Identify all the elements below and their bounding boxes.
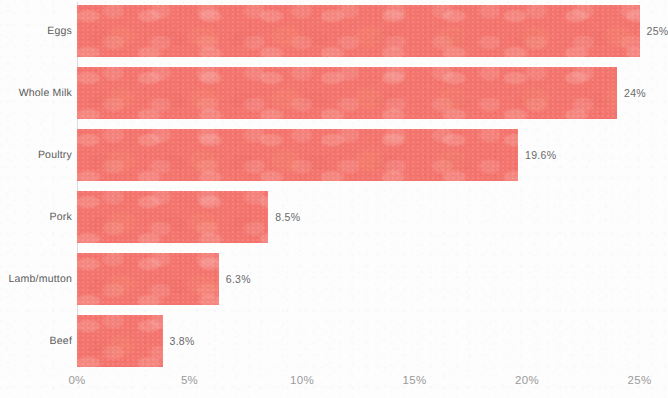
bar[interactable] bbox=[77, 253, 219, 305]
value-label: 8.5% bbox=[275, 211, 300, 223]
bar-row[interactable]: Eggs 25% bbox=[0, 5, 668, 57]
x-tick-label: 15% bbox=[403, 374, 427, 386]
x-tick-label: 20% bbox=[515, 374, 539, 386]
value-label: 25% bbox=[647, 25, 668, 37]
bar-texture bbox=[77, 191, 268, 243]
plot-area: Eggs 25% Whole Milk 24% Poultry 19.6% Po… bbox=[0, 0, 668, 398]
bar-row[interactable]: Whole Milk 24% bbox=[0, 67, 668, 119]
x-tick-label: 10% bbox=[290, 374, 314, 386]
category-label: Eggs bbox=[47, 25, 72, 37]
bar-row[interactable]: Beef 3.8% bbox=[0, 315, 668, 367]
bar[interactable] bbox=[77, 315, 163, 367]
bar-chart: Eggs 25% Whole Milk 24% Poultry 19.6% Po… bbox=[0, 0, 668, 398]
x-axis: 0% 5% 10% 15% 20% 25% bbox=[0, 366, 668, 398]
bar-row[interactable]: Poultry 19.6% bbox=[0, 129, 668, 181]
x-tick-label: 5% bbox=[181, 374, 198, 386]
bar-row[interactable]: Pork 8.5% bbox=[0, 191, 668, 243]
bar-row[interactable]: Lamb/mutton 6.3% bbox=[0, 253, 668, 305]
bar-texture bbox=[77, 253, 219, 305]
value-label: 6.3% bbox=[226, 273, 251, 285]
category-label: Whole Milk bbox=[19, 87, 72, 99]
bar[interactable] bbox=[77, 67, 617, 119]
category-label: Beef bbox=[50, 335, 72, 347]
value-label: 3.8% bbox=[170, 335, 195, 347]
bar-texture bbox=[77, 67, 617, 119]
bar-texture bbox=[77, 315, 163, 367]
bar[interactable] bbox=[77, 129, 518, 181]
category-label: Poultry bbox=[38, 149, 72, 161]
bar-texture bbox=[77, 5, 640, 57]
bar-texture bbox=[77, 129, 518, 181]
category-label: Pork bbox=[50, 211, 72, 223]
category-label: Lamb/mutton bbox=[9, 273, 72, 285]
x-tick-label: 0% bbox=[68, 374, 85, 386]
bar[interactable] bbox=[77, 5, 640, 57]
value-label: 19.6% bbox=[525, 149, 556, 161]
x-tick-label: 25% bbox=[628, 374, 652, 386]
bar[interactable] bbox=[77, 191, 268, 243]
value-label: 24% bbox=[624, 87, 646, 99]
